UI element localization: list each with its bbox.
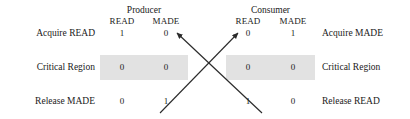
cell-producer-read-1: 1 bbox=[100, 28, 144, 39]
cell-consumer-read-3: 1 bbox=[226, 96, 270, 107]
cell-consumer-made-2: 0 bbox=[271, 62, 315, 73]
row-label-right-1: Acquire MADE bbox=[322, 28, 410, 39]
column-header-consumer-made: MADE bbox=[271, 16, 315, 27]
row-label-left-1: Acquire READ bbox=[0, 28, 95, 39]
cell-producer-made-2: 0 bbox=[144, 62, 188, 73]
column-header-producer-read: READ bbox=[100, 16, 144, 27]
cell-consumer-read-2: 0 bbox=[226, 62, 270, 73]
cell-producer-made-1: 0 bbox=[144, 28, 188, 39]
row-label-left-3: Release MADE bbox=[0, 96, 95, 107]
row-label-right-2: Critical Region bbox=[322, 62, 410, 73]
group-title-producer: Producer bbox=[100, 5, 188, 16]
cell-consumer-read-1: 0 bbox=[226, 28, 270, 39]
cell-producer-made-3: 1 bbox=[144, 96, 188, 107]
cell-producer-read-3: 0 bbox=[100, 96, 144, 107]
cell-consumer-made-1: 1 bbox=[271, 28, 315, 39]
semaphore-diagram: Producer Consumer READ MADE READ MADE Ac… bbox=[0, 0, 410, 119]
column-header-producer-made: MADE bbox=[144, 16, 188, 27]
column-header-consumer-read: READ bbox=[226, 16, 270, 27]
row-label-left-2: Critical Region bbox=[0, 62, 95, 73]
group-title-consumer: Consumer bbox=[226, 5, 315, 16]
cell-consumer-made-3: 0 bbox=[271, 96, 315, 107]
cell-producer-read-2: 0 bbox=[100, 62, 144, 73]
row-label-right-3: Release READ bbox=[322, 96, 410, 107]
